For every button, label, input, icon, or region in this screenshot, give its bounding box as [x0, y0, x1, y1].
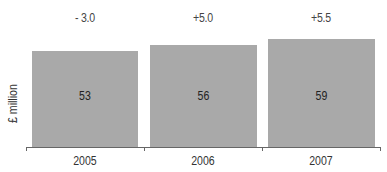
bar-2007: 59	[268, 39, 375, 147]
x-axis-tick	[262, 147, 263, 151]
bar-value-2006: 56	[156, 89, 250, 103]
x-axis-tick	[144, 147, 145, 151]
x-tick-label-2007: 2007	[277, 154, 365, 168]
bar-2005: 53	[32, 51, 138, 147]
change-label-2006: +5.0	[159, 11, 247, 25]
x-axis-line	[26, 147, 381, 148]
x-tick-label-2005: 2005	[41, 154, 129, 168]
change-label-2007: +5.5	[277, 11, 365, 25]
bar-2006: 56	[150, 45, 257, 147]
bar-chart: £ million - 3.0 +5.0 +5.5 53 56 59 2005 …	[0, 0, 387, 172]
x-tick-label-2006: 2006	[159, 154, 247, 168]
bar-value-2007: 59	[274, 89, 368, 103]
y-axis-label: £ million	[6, 77, 20, 130]
x-axis-tick	[26, 147, 27, 151]
x-axis-tick	[380, 147, 381, 151]
change-label-2005: - 3.0	[41, 11, 129, 25]
bar-value-2005: 53	[38, 89, 131, 103]
